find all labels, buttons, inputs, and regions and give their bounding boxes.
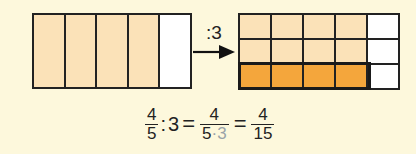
fraction-four-fifths: 4 5 — [145, 106, 158, 143]
right-fraction-grid — [238, 13, 400, 90]
equals-sign: = — [234, 111, 247, 137]
fraction-intermediate: 4 5·3 — [200, 106, 229, 143]
empty-cell — [368, 40, 398, 63]
highlighted-cell — [336, 65, 366, 88]
light-cell — [272, 15, 302, 38]
formula: 4 5 : 3 = 4 5·3 = 4 15 — [143, 99, 276, 149]
highlighted-cell — [304, 65, 334, 88]
shaded-part — [66, 15, 96, 87]
light-cell — [304, 40, 334, 63]
light-cell — [240, 40, 270, 63]
arrow-right-icon — [193, 44, 235, 60]
division-label: :3 — [206, 22, 222, 44]
light-cell — [336, 15, 366, 38]
division-sign: : — [160, 113, 166, 136]
shaded-part — [97, 15, 127, 87]
empty-cell — [368, 65, 398, 88]
shaded-part — [34, 15, 64, 87]
light-cell — [336, 40, 366, 63]
equals-sign: = — [182, 111, 195, 137]
light-cell — [272, 40, 302, 63]
empty-cell — [368, 15, 398, 38]
light-cell — [240, 15, 270, 38]
shaded-part — [129, 15, 159, 87]
highlighted-cell — [240, 65, 270, 88]
unshaded-part — [160, 15, 190, 87]
highlighted-cell — [272, 65, 302, 88]
divisor: 3 — [168, 113, 179, 136]
light-cell — [304, 15, 334, 38]
left-fraction-bar — [32, 13, 192, 89]
fraction-result: 4 15 — [251, 106, 274, 143]
